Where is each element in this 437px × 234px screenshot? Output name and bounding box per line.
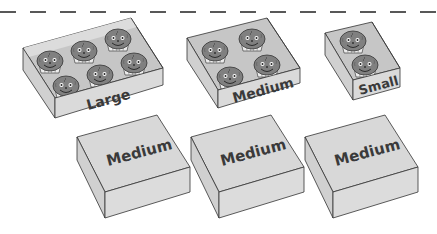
- open-box-medium: Medium: [187, 18, 300, 108]
- muffin-boxes-illustration: Large Medium Small Medium: [0, 0, 437, 234]
- closed-box-1: Medium: [77, 115, 190, 218]
- open-box-small: Small: [325, 22, 400, 100]
- closed-box-2: Medium: [191, 115, 304, 218]
- closed-box-3: Medium: [305, 115, 418, 218]
- open-box-large: Large: [23, 18, 163, 118]
